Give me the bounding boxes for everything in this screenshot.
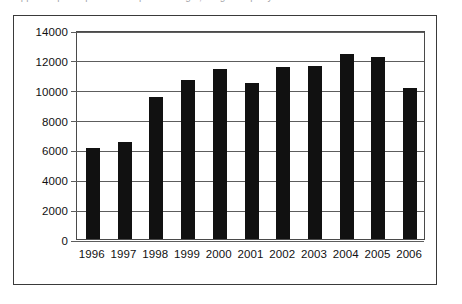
- y-tick-label: 4000: [42, 175, 68, 187]
- x-axis-labels: 1996199719981999200020012002200320042005…: [76, 248, 425, 268]
- plot-area: 02000400060008000100001200014000: [76, 31, 425, 240]
- x-tick-label: 1996: [79, 248, 105, 260]
- x-tick-label: 2003: [301, 248, 327, 260]
- x-tick-label: 2001: [238, 248, 264, 260]
- y-tick-label: 10000: [36, 86, 68, 98]
- y-tick-label: 2000: [42, 205, 68, 217]
- gridline: [77, 241, 424, 242]
- clipped-caption-strip: Apparent per capita consumption of sugar…: [0, 0, 462, 11]
- bar[interactable]: [276, 67, 290, 239]
- y-tick-label: 14000: [36, 26, 68, 38]
- caption-text: Apparent per capita consumption of sugar…: [14, 0, 287, 2]
- x-tick-label: 2000: [206, 248, 232, 260]
- bar[interactable]: [245, 83, 259, 239]
- x-tick-label: 1999: [174, 248, 200, 260]
- bar[interactable]: [371, 57, 385, 239]
- bar[interactable]: [181, 80, 195, 239]
- x-tick-label: 1997: [111, 248, 137, 260]
- y-tick-label: 6000: [42, 145, 68, 157]
- x-tick-label: 2004: [333, 248, 359, 260]
- bar[interactable]: [213, 69, 227, 239]
- bar[interactable]: [308, 66, 322, 239]
- x-tick-label: 1998: [142, 248, 168, 260]
- y-tick-mark: [71, 241, 77, 242]
- x-tick-label: 2006: [396, 248, 422, 260]
- bars-layer: [77, 32, 424, 239]
- bar[interactable]: [118, 142, 132, 239]
- y-tick-label: 8000: [42, 116, 68, 128]
- x-tick-label: 2002: [269, 248, 295, 260]
- x-tick-label: 2005: [364, 248, 390, 260]
- bar[interactable]: [340, 54, 354, 239]
- y-tick-label: 12000: [36, 56, 68, 68]
- bar[interactable]: [403, 88, 417, 239]
- chart-frame: 02000400060008000100001200014000 1996199…: [13, 15, 437, 285]
- bar[interactable]: [149, 97, 163, 239]
- y-tick-label: 0: [62, 235, 69, 247]
- bar[interactable]: [86, 148, 100, 239]
